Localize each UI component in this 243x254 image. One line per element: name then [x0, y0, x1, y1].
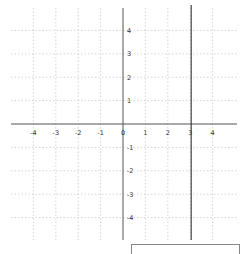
axes	[11, 8, 237, 240]
x-tick-label: -3	[53, 129, 59, 137]
y-tick-label: 3	[127, 50, 131, 58]
y-tick-label: 4	[127, 27, 131, 35]
x-tick-label: 4	[211, 129, 215, 137]
x-tick-label: -2	[75, 129, 81, 137]
x-tick-label: -4	[30, 129, 36, 137]
y-tick-label: -3	[127, 191, 133, 199]
x-tick-label: 1	[143, 129, 147, 137]
answer-input-box[interactable]	[131, 244, 240, 254]
y-tick-label: 1	[127, 97, 131, 105]
x-tick-label: 2	[166, 129, 170, 137]
y-tick-label: -1	[127, 144, 133, 152]
x-tick-label: -1	[97, 129, 103, 137]
y-tick-label: -2	[127, 167, 133, 175]
x-tick-labels: -4-3-2-101234	[30, 129, 215, 137]
x-tick-label: 0	[121, 129, 125, 137]
y-tick-label: 2	[127, 74, 131, 82]
y-tick-labels: 4321-1-2-3-4	[127, 27, 133, 222]
y-tick-label: -4	[127, 214, 133, 222]
